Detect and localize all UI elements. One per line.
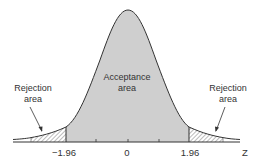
rejection-right-label-line2: area [219,94,237,104]
acceptance-label-line2: area [118,83,136,93]
right-arrow-head-icon [215,127,219,133]
tick-label-zero: 0 [124,147,129,158]
tick-label-1-96: 1.96 [181,147,200,158]
rejection-left-label-line2: area [24,94,42,104]
normal-curve-diagram: −1.96 0 1.96 Z Acceptance area Rejection… [0,0,258,167]
tick-label-neg-1-96: −1.96 [52,147,76,158]
axis-label-z: Z [242,147,248,158]
rejection-right-label-line1: Rejection [209,83,247,93]
acceptance-label-line1: Acceptance [103,72,150,82]
left-arrow-head-icon [39,127,43,133]
rejection-left-label-line1: Rejection [14,83,52,93]
